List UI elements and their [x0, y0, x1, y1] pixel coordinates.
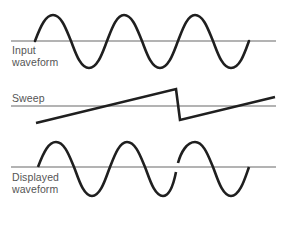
- sweep-label: Sweep: [12, 92, 45, 104]
- displayed-sine-segment-2: [178, 142, 249, 196]
- displayed-label-line1: Displayed: [12, 171, 59, 183]
- displayed-label-line2: waveform: [12, 183, 59, 195]
- sweep-panel: [11, 89, 276, 123]
- sweep-label-text: Sweep: [12, 92, 45, 104]
- input-waveform-label: Input waveform: [12, 44, 58, 68]
- input-label-line1: Input: [12, 44, 58, 56]
- displayed-waveform-label: Displayed waveform: [12, 171, 59, 195]
- input-label-line2: waveform: [12, 56, 58, 68]
